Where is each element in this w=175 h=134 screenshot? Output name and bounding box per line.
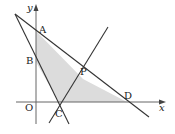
origin-label: O [25, 102, 33, 113]
point-A-label: A [38, 24, 47, 35]
point-B-label: B [26, 55, 33, 66]
coordinate-diagram: y x O A B C D P [0, 0, 175, 134]
point-D-label: D [124, 90, 132, 101]
y-axis-arrow-icon [34, 4, 39, 11]
y-axis-label: y [26, 2, 33, 13]
point-C-label: C [55, 108, 63, 119]
x-axis-label: x [159, 102, 165, 113]
point-P-label: P [80, 66, 87, 77]
